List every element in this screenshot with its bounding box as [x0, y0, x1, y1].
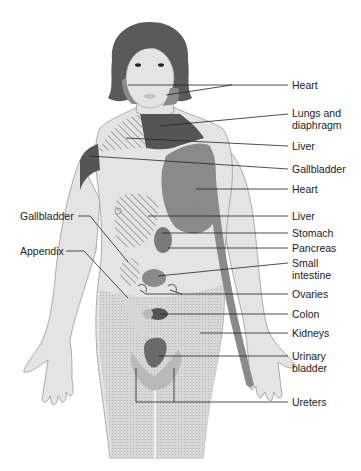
label-kidneys: Kidneys: [292, 327, 329, 339]
label-ureters: Ureters: [292, 396, 326, 408]
label-heart-chest: Heart: [292, 183, 318, 195]
label-appendix: Appendix: [20, 245, 64, 257]
label-ovaries: Ovaries: [292, 288, 328, 300]
label-liver-shoulder: Liver: [292, 140, 315, 152]
label-gallbladder-abdomen: Gallbladder: [20, 210, 74, 222]
region-small-intestine: [142, 269, 166, 287]
label-small-intestine: Small intestine: [292, 257, 342, 281]
region-gallbladder-abdomen: [120, 258, 140, 286]
label-urinary-bladder: Urinary bladder: [292, 350, 342, 374]
label-pancreas: Pancreas: [292, 242, 336, 254]
label-heart-face: Heart: [292, 79, 318, 91]
label-gallbladder-shoulder: Gallbladder: [292, 163, 346, 175]
label-stomach: Stomach: [292, 227, 333, 239]
head: [108, 22, 192, 108]
region-stomach: [154, 227, 172, 253]
label-liver-abdomen: Liver: [292, 210, 315, 222]
label-colon: Colon: [292, 308, 319, 320]
label-lungs-diaphragm: Lungs and diaphragm: [292, 107, 352, 131]
